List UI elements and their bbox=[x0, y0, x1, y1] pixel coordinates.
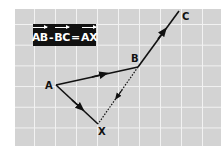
vector-ab bbox=[56, 67, 138, 85]
vector-ax bbox=[56, 85, 98, 124]
vector-bc bbox=[138, 11, 179, 67]
vector-negative-bc bbox=[98, 67, 138, 124]
point-label-b: B bbox=[131, 53, 139, 64]
point-label-a: A bbox=[45, 80, 53, 91]
point-label-x: X bbox=[98, 126, 106, 137]
vector-diagram: A B C X bbox=[0, 0, 221, 153]
point-label-c: C bbox=[182, 11, 189, 22]
